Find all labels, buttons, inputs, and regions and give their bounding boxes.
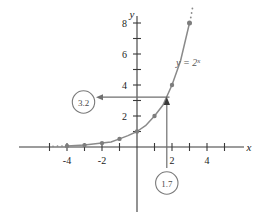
y-annotation-arrowhead: [96, 94, 103, 100]
curve-label-exponent: x: [196, 57, 201, 65]
exponential-function-figure: x y -4 -2 2 4 2 4 6 8: [0, 0, 269, 224]
tail-dot-3: [52, 145, 54, 147]
data-point: [117, 137, 121, 141]
y-tick-label-8: 8: [122, 18, 127, 29]
x-axis-label: x: [246, 141, 252, 153]
data-point: [187, 21, 192, 26]
top-continuation-dots: [190, 8, 193, 19]
data-point: [170, 83, 174, 87]
axes-group: [19, 16, 244, 212]
y-tick-label-4: 4: [122, 80, 127, 91]
data-point: [135, 129, 139, 133]
graph-canvas: x y -4 -2 2 4 2 4 6 8: [0, 0, 269, 224]
y-tick-label-6: 6: [122, 49, 127, 60]
y-value-callout[interactable]: 3.2: [72, 91, 94, 113]
curve-label-base: y = 2: [175, 57, 197, 68]
x-tick-label-4: 4: [205, 155, 210, 166]
curve-function-label: y = 2x: [175, 57, 201, 69]
top-dot-3: [192, 8, 194, 10]
x-tick-label-2: 2: [170, 155, 175, 166]
data-point: [82, 143, 86, 147]
x-value-callout[interactable]: 1.7: [156, 172, 178, 194]
y-axis-label: y: [129, 8, 135, 20]
tail-dot-2: [57, 145, 59, 147]
y-callout-label: 3.2: [78, 98, 89, 108]
data-point: [65, 144, 69, 148]
data-point: [152, 114, 156, 118]
data-points-group: [65, 21, 192, 149]
top-dot-1: [190, 17, 192, 19]
x-tick-label--2: -2: [98, 155, 106, 166]
tail-dot-1: [61, 145, 63, 147]
y-value-annotation: [96, 94, 170, 100]
data-point: [100, 141, 104, 145]
y-tick-label-2: 2: [122, 111, 127, 122]
x-callout-label: 1.7: [161, 179, 173, 189]
top-dot-2: [191, 12, 193, 14]
x-tick-label--4: -4: [63, 155, 71, 166]
